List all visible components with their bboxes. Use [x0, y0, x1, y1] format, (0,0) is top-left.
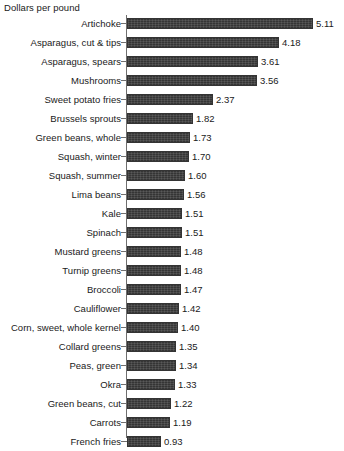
bar [127, 75, 257, 86]
category-label: Cauliflower [74, 299, 121, 318]
bar [127, 417, 170, 428]
bar-row: Mustard greens1.48 [0, 242, 344, 261]
bar [127, 303, 179, 314]
value-label: 1.70 [192, 147, 211, 166]
value-label: 1.47 [184, 280, 203, 299]
bar [127, 113, 193, 124]
bar [127, 208, 182, 219]
bar [127, 322, 178, 333]
bar-row: Okra1.33 [0, 375, 344, 394]
plot-area: Artichoke5.11Asparagus, cut & tips4.18As… [0, 14, 344, 444]
category-label: Okra [100, 375, 121, 394]
value-label: 2.37 [216, 90, 235, 109]
bar-row: Brussels sprouts1.82 [0, 109, 344, 128]
category-label: Squash, summer [49, 166, 121, 185]
bar [127, 227, 182, 238]
category-label: Sweet potato fries [44, 90, 121, 109]
category-label: Turnip greens [62, 261, 121, 280]
bar [127, 132, 190, 143]
category-label: Collard greens [59, 337, 121, 356]
value-label: 1.40 [181, 318, 200, 337]
bar-row: Corn, sweet, whole kernel1.40 [0, 318, 344, 337]
value-label: 1.73 [193, 128, 212, 147]
bar [127, 37, 279, 48]
category-label: French fries [70, 432, 121, 451]
value-label: 1.82 [196, 109, 215, 128]
bar-row: Turnip greens1.48 [0, 261, 344, 280]
bar-row: Green beans, cut1.22 [0, 394, 344, 413]
bar-row: Broccoli1.47 [0, 280, 344, 299]
bar-rows: Artichoke5.11Asparagus, cut & tips4.18As… [0, 14, 344, 451]
bar-row: Sweet potato fries2.37 [0, 90, 344, 109]
category-label: Lima beans [72, 185, 121, 204]
value-label: 1.34 [179, 356, 198, 375]
bar [127, 360, 176, 371]
category-label: Asparagus, spears [41, 52, 121, 71]
category-label: Artichoke [81, 14, 121, 33]
bar-row: Cauliflower1.42 [0, 299, 344, 318]
value-label: 1.60 [188, 166, 207, 185]
category-label: Corn, sweet, whole kernel [11, 318, 121, 337]
value-label: 3.56 [260, 71, 279, 90]
bar [127, 246, 181, 257]
bar-row: French fries0.93 [0, 432, 344, 451]
value-label: 1.19 [173, 413, 192, 432]
bar-row: Kale1.51 [0, 204, 344, 223]
bar-row: Spinach1.51 [0, 223, 344, 242]
value-label: 0.93 [164, 432, 183, 451]
value-label: 1.35 [179, 337, 198, 356]
bar [127, 170, 185, 181]
bar-row: Asparagus, cut & tips4.18 [0, 33, 344, 52]
bar-row: Squash, winter1.70 [0, 147, 344, 166]
bar-row: Carrots1.19 [0, 413, 344, 432]
bar-row: Collard greens1.35 [0, 337, 344, 356]
bar [127, 398, 171, 409]
category-label: Kale [102, 204, 121, 223]
category-label: Spinach [86, 223, 121, 242]
bar [127, 56, 258, 67]
value-label: 4.18 [282, 33, 301, 52]
value-label: 1.51 [185, 223, 204, 242]
bar [127, 151, 189, 162]
bar [127, 379, 175, 390]
value-label: 5.11 [316, 14, 334, 33]
category-label: Brussels sprouts [50, 109, 121, 128]
category-label: Mushrooms [71, 71, 121, 90]
value-label: 1.22 [174, 394, 193, 413]
category-label: Carrots [90, 413, 121, 432]
axis-title: Dollars per pound [4, 2, 80, 14]
bar-row: Asparagus, spears3.61 [0, 52, 344, 71]
category-label: Squash, winter [58, 147, 121, 166]
category-label: Green beans, cut [48, 394, 121, 413]
value-label: 3.61 [261, 52, 280, 71]
value-label: 1.48 [184, 242, 203, 261]
bar-row: Mushrooms3.56 [0, 71, 344, 90]
category-label: Mustard greens [55, 242, 121, 261]
bar [127, 341, 176, 352]
bar-row: Green beans, whole1.73 [0, 128, 344, 147]
bar-row: Peas, green1.34 [0, 356, 344, 375]
bar [127, 436, 161, 447]
category-label: Peas, green [69, 356, 121, 375]
bar [127, 265, 181, 276]
category-label: Green beans, whole [35, 128, 121, 147]
bar [127, 284, 181, 295]
value-label: 1.51 [185, 204, 204, 223]
bar-row: Lima beans1.56 [0, 185, 344, 204]
bar [127, 18, 313, 29]
value-label: 1.56 [187, 185, 206, 204]
bar [127, 189, 184, 200]
bar [127, 94, 213, 105]
category-label: Asparagus, cut & tips [31, 33, 121, 52]
value-label: 1.48 [184, 261, 203, 280]
value-label: 1.42 [182, 299, 201, 318]
bar-row: Squash, summer1.60 [0, 166, 344, 185]
bar-row: Artichoke5.11 [0, 14, 344, 33]
value-label: 1.33 [178, 375, 197, 394]
category-label: Broccoli [87, 280, 121, 299]
